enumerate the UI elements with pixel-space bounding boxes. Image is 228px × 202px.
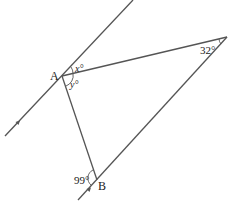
parallel-line-2	[78, 37, 227, 200]
line-a-apex	[62, 37, 227, 76]
geometry-diagram: A B x° y° 32° 99°	[0, 0, 228, 202]
segment-ab	[62, 76, 97, 180]
angle-x-label: x°	[74, 63, 83, 74]
point-a-label: A	[50, 69, 59, 83]
angle-apex-arc	[219, 39, 221, 44]
angle-x-arc	[71, 67, 73, 74]
point-b-label: B	[98, 179, 106, 193]
angle-y-label: y°	[69, 79, 78, 90]
angle-b-label: 99°	[74, 174, 89, 186]
angle-apex-label: 32°	[200, 44, 215, 56]
parallel-line-1	[5, 0, 133, 136]
